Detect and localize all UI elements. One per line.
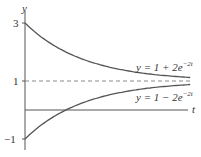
y-axis-label: y [21,2,27,14]
tick-label-neg1: −1 [4,133,16,145]
tick-label-3: 3 [13,17,19,29]
tick-label-1: 1 [13,75,19,87]
chart: y t 3 1 −1 y = 1 + 2e−2t y = 1 − 2e−2t [0,0,201,157]
lower-curve-label: y = 1 − 2e−2t [135,90,194,103]
t-axis-label: t [192,103,196,115]
upper-curve-label: y = 1 + 2e−2t [135,60,194,73]
